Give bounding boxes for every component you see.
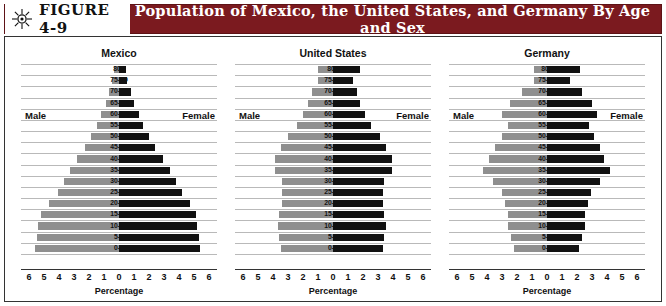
x-axis xyxy=(235,269,431,270)
legend-male: Male xyxy=(25,110,46,121)
x-tick: 1 xyxy=(312,272,324,282)
age-label: 60-64 xyxy=(97,111,141,118)
sun-icon xyxy=(11,8,33,30)
age-label: 20-24 xyxy=(525,200,569,207)
panel-title: Germany xyxy=(449,47,645,59)
x-tick: 6 xyxy=(417,272,429,282)
x-tick: 4 xyxy=(481,272,493,282)
x-tick: 4 xyxy=(173,272,185,282)
gridline xyxy=(235,254,431,255)
age-label: 50-54 xyxy=(311,133,355,140)
x-tick: 3 xyxy=(68,272,80,282)
gridline xyxy=(449,254,645,255)
legend-male: Male xyxy=(239,110,260,121)
figure-header: FIGURE 4-9 Population of Mexico, the Uni… xyxy=(4,4,662,34)
x-tick: 6 xyxy=(23,272,35,282)
age-label: 0-4 xyxy=(97,245,141,252)
legend-male: Male xyxy=(453,110,474,121)
gridline xyxy=(21,254,217,255)
x-tick: 5 xyxy=(188,272,200,282)
age-label: 50-54 xyxy=(97,133,141,140)
age-label-column: 0-45-910-1415-1920-2425-2930-3435-3940-4… xyxy=(311,64,355,254)
age-label: 75-79 xyxy=(311,77,355,84)
legend-female: Female xyxy=(396,110,429,121)
x-tick: 0 xyxy=(327,272,339,282)
x-tick: 6 xyxy=(631,272,643,282)
x-axis-title: Percentage xyxy=(235,286,431,296)
x-axis xyxy=(449,269,645,270)
age-label: 20-24 xyxy=(311,200,355,207)
x-tick: 4 xyxy=(267,272,279,282)
age-label: 80+ xyxy=(311,66,355,73)
x-tick: 5 xyxy=(402,272,414,282)
age-label: 40-44 xyxy=(311,156,355,163)
x-tick: 1 xyxy=(98,272,110,282)
age-label: 35-39 xyxy=(311,167,355,174)
age-label: 50-54 xyxy=(525,133,569,140)
x-tick: 6 xyxy=(237,272,249,282)
age-label: 70-74 xyxy=(525,88,569,95)
age-label-column: 0-45-910-1415-1920-2425-2930-3435-3940-4… xyxy=(97,64,141,254)
x-tick: 5 xyxy=(252,272,264,282)
age-label: 15-19 xyxy=(525,211,569,218)
legend-female: Female xyxy=(610,110,643,121)
age-label: 25-29 xyxy=(525,189,569,196)
x-tick: 5 xyxy=(466,272,478,282)
x-tick: 3 xyxy=(158,272,170,282)
x-tick: 2 xyxy=(83,272,95,282)
age-label: 75-79 xyxy=(525,77,569,84)
figure-number: FIGURE 4-9 xyxy=(39,1,130,37)
age-label: 60-64 xyxy=(525,111,569,118)
figure-root: FIGURE 4-9 Population of Mexico, the Uni… xyxy=(0,0,666,306)
panel-mexico: Mexico0-45-910-1415-1920-2425-2930-3435-… xyxy=(21,47,217,269)
age-label: 5-9 xyxy=(97,234,141,241)
x-tick: 3 xyxy=(496,272,508,282)
age-label: 5-9 xyxy=(525,234,569,241)
x-tick: 1 xyxy=(556,272,568,282)
age-label: 65-69 xyxy=(97,100,141,107)
age-label: 25-29 xyxy=(311,189,355,196)
chart-frame: Mexico0-45-910-1415-1920-2425-2930-3435-… xyxy=(4,36,662,302)
x-tick: 5 xyxy=(616,272,628,282)
x-tick: 0 xyxy=(541,272,553,282)
age-label: 10-14 xyxy=(525,223,569,230)
panel-title: United States xyxy=(235,47,431,59)
age-label: 30-34 xyxy=(311,178,355,185)
age-label: 10-14 xyxy=(97,223,141,230)
x-tick: 2 xyxy=(297,272,309,282)
age-label: 55-59 xyxy=(97,122,141,129)
figure-title: Population of Mexico, the United States,… xyxy=(130,2,661,36)
x-tick: 3 xyxy=(586,272,598,282)
age-label: 45-49 xyxy=(97,144,141,151)
age-label: 35-39 xyxy=(525,167,569,174)
x-tick: 3 xyxy=(282,272,294,282)
x-tick: 4 xyxy=(53,272,65,282)
panel-title: Mexico xyxy=(21,47,217,59)
x-tick: 6 xyxy=(451,272,463,282)
x-tick: 4 xyxy=(601,272,613,282)
age-label: 70-74 xyxy=(311,88,355,95)
age-label: 0-4 xyxy=(525,245,569,252)
legend-female: Female xyxy=(182,110,215,121)
x-axis-title: Percentage xyxy=(449,286,645,296)
age-label: 40-44 xyxy=(97,156,141,163)
x-axis xyxy=(21,269,217,270)
age-label: 55-59 xyxy=(525,122,569,129)
age-label: 45-49 xyxy=(311,144,355,151)
x-tick: 2 xyxy=(143,272,155,282)
age-label: 65-69 xyxy=(311,100,355,107)
age-label: 25-29 xyxy=(97,189,141,196)
age-label: 10-14 xyxy=(311,223,355,230)
age-label: 75-79 xyxy=(97,77,141,84)
age-label: 40-44 xyxy=(525,156,569,163)
age-label: 30-34 xyxy=(97,178,141,185)
age-label: 0-4 xyxy=(311,245,355,252)
age-label: 55-59 xyxy=(311,122,355,129)
x-tick: 2 xyxy=(571,272,583,282)
age-label: 80+ xyxy=(97,66,141,73)
x-tick: 2 xyxy=(511,272,523,282)
age-label: 65-69 xyxy=(525,100,569,107)
age-label-column: 0-45-910-1415-1920-2425-2930-3435-3940-4… xyxy=(525,64,569,254)
panel-germany: Germany0-45-910-1415-1920-2425-2930-3435… xyxy=(449,47,645,269)
x-tick: 1 xyxy=(526,272,538,282)
